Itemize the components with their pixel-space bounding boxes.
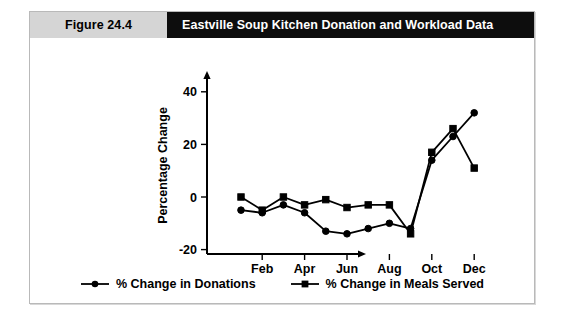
data-point-marker — [365, 225, 372, 232]
data-point-marker — [323, 228, 330, 235]
svg-text:Apr: Apr — [294, 262, 316, 276]
line-chart-svg: 40200-20FebAprJunAugOctDecPercentage Cha… — [30, 38, 536, 305]
data-point-marker — [407, 231, 413, 237]
data-point-marker — [280, 194, 286, 200]
svg-text:20: 20 — [183, 138, 197, 152]
svg-text:Jun: Jun — [336, 262, 358, 276]
data-point-marker — [386, 202, 392, 208]
data-point-marker — [344, 231, 351, 238]
legend-label-meals-served: % Change in Meals Served — [326, 277, 484, 291]
svg-text:40: 40 — [183, 85, 197, 99]
svg-text:Aug: Aug — [377, 262, 401, 276]
svg-text:-20: -20 — [179, 243, 197, 257]
figure-title: Eastville Soup Kitchen Donation and Work… — [167, 12, 534, 38]
data-point-marker — [238, 207, 245, 214]
data-point-marker — [344, 204, 350, 210]
data-point-marker — [301, 202, 307, 208]
figure-header: Figure 24.4 Eastville Soup Kitchen Donat… — [30, 12, 534, 38]
data-point-marker — [450, 125, 456, 131]
data-point-marker — [280, 202, 287, 209]
figure-container: Figure 24.4 Eastville Soup Kitchen Donat… — [29, 11, 535, 304]
data-point-marker — [471, 110, 478, 117]
data-point-marker — [386, 220, 393, 227]
figure-number-label: Figure 24.4 — [30, 12, 167, 38]
circle-marker-icon — [80, 278, 110, 290]
legend-item-donations: % Change in Donations — [80, 277, 256, 291]
data-point-marker — [259, 207, 265, 213]
chart-plot-area: 40200-20FebAprJunAugOctDecPercentage Cha… — [30, 38, 534, 305]
series-line-1 — [241, 113, 474, 234]
svg-text:Dec: Dec — [463, 262, 486, 276]
series-line-2 — [241, 129, 474, 234]
chart-legend: % Change in Donations % Change in Meals … — [30, 277, 534, 291]
svg-text:Feb: Feb — [251, 262, 274, 276]
svg-text:0: 0 — [190, 191, 197, 205]
svg-text:Percentage Change: Percentage Change — [156, 107, 170, 224]
legend-item-meals-served: % Change in Meals Served — [290, 277, 484, 291]
svg-text:Oct: Oct — [421, 262, 443, 276]
data-point-marker — [365, 202, 371, 208]
data-point-marker — [301, 209, 308, 216]
data-point-marker — [238, 194, 244, 200]
data-point-marker — [471, 165, 477, 171]
legend-label-donations: % Change in Donations — [116, 277, 256, 291]
data-point-marker — [429, 149, 435, 155]
square-marker-icon — [290, 278, 320, 290]
data-point-marker — [323, 196, 329, 202]
